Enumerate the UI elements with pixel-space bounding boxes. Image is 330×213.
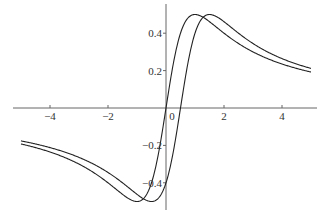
x-tick-label: 4 — [279, 110, 285, 122]
x-tick-label: −4 — [44, 110, 56, 122]
x-tick-label: 2 — [221, 110, 227, 122]
x-tick-label: 0 — [169, 110, 175, 122]
x-tick-label: −2 — [102, 110, 114, 122]
y-tick-label: −0.4 — [142, 177, 162, 189]
axes — [13, 4, 317, 210]
y-tick-label: 0.2 — [148, 65, 162, 77]
line-chart: −4−2024−0.4−0.20.20.4 — [0, 0, 330, 213]
y-tick-label: −0.2 — [142, 139, 162, 151]
y-tick-label: 0.4 — [148, 27, 162, 39]
